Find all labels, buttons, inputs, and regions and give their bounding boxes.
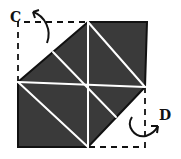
label-c: C bbox=[10, 9, 21, 25]
origami-diagram: C D bbox=[0, 0, 181, 159]
curved-arrow-icon bbox=[33, 10, 49, 43]
label-d: D bbox=[159, 107, 171, 123]
curved-arrow-icon bbox=[130, 117, 158, 136]
